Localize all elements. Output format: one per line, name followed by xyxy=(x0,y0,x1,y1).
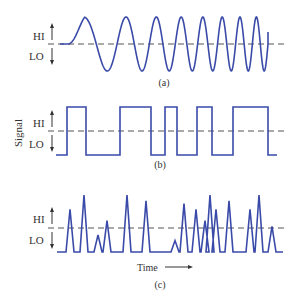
hi-label-c: HI xyxy=(33,213,45,225)
hi-arrow-icon xyxy=(50,110,54,127)
panel-b: HI LO (b) xyxy=(29,107,285,171)
lo-label-a: LO xyxy=(29,50,44,62)
caption-a: (a) xyxy=(158,77,169,89)
caption-b: (b) xyxy=(154,159,166,171)
lo-arrow-icon xyxy=(50,48,54,65)
panel-c: HI LO Time (c) xyxy=(29,195,285,291)
lo-arrow-icon xyxy=(50,232,54,249)
caption-c: (c) xyxy=(154,279,165,291)
pulse-spike-signal xyxy=(57,195,283,252)
hi-arrow-icon xyxy=(50,23,54,40)
lo-label-b: LO xyxy=(29,138,44,150)
hi-label-a: HI xyxy=(33,30,45,42)
spike-trace xyxy=(57,195,283,252)
hi-arrow-icon xyxy=(50,207,54,224)
y-axis-label: Signal xyxy=(12,119,24,147)
lo-label-c: LO xyxy=(29,234,44,246)
signal-diagram: Signal HI LO (a) HI LO (b) HI xyxy=(0,0,295,301)
time-arrow-icon xyxy=(165,265,193,269)
hi-label-b: HI xyxy=(33,117,45,129)
lo-arrow-icon xyxy=(50,135,54,152)
panel-a: HI LO (a) xyxy=(29,17,285,89)
x-axis-label: Time xyxy=(137,262,158,273)
